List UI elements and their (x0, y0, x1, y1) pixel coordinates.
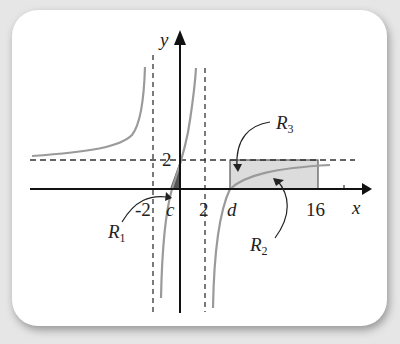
x-tick-c: c (166, 200, 174, 219)
region-r2-label: R2 (250, 235, 268, 257)
x-tick-16: 16 (306, 200, 325, 219)
x-axis-arrow-icon (362, 183, 372, 195)
x-axis-label: x (352, 198, 360, 217)
region-r3-label: R3 (276, 113, 294, 135)
region-r1-label: R1 (108, 222, 126, 244)
graph-canvas (0, 0, 400, 344)
y-axis-label: y (160, 30, 168, 49)
x-tick-2: 2 (199, 200, 209, 219)
curve-left-branch (32, 67, 145, 156)
region-r3-r2-shade (230, 160, 318, 189)
y-tick-2: 2 (162, 150, 172, 169)
x-tick-d: d (227, 200, 237, 219)
x-tick-neg2: -2 (135, 200, 151, 219)
y-axis-arrow-icon (174, 30, 186, 45)
